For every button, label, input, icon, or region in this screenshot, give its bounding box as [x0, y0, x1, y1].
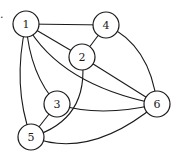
node-1: 1 — [13, 11, 39, 37]
node-6-label: 6 — [154, 98, 161, 111]
node-3: 3 — [44, 91, 70, 117]
graph-diagram: 1 2 3 4 5 6 — [0, 0, 178, 155]
nodes-layer: 1 2 3 4 5 6 — [13, 11, 170, 150]
node-5: 5 — [18, 124, 44, 150]
node-2: 2 — [69, 44, 95, 70]
edge-1-5 — [20, 24, 31, 137]
node-6: 6 — [144, 91, 170, 117]
node-3-label: 3 — [54, 98, 61, 111]
node-2-label: 2 — [79, 51, 86, 64]
node-1-label: 1 — [23, 18, 30, 31]
node-4: 4 — [93, 12, 119, 38]
node-5-label: 5 — [28, 131, 35, 144]
edges-layer — [20, 24, 157, 144]
node-4-label: 4 — [103, 19, 110, 32]
